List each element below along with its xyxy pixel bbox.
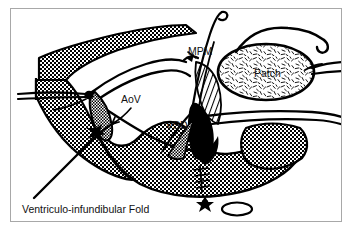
open-oval-marker — [222, 203, 252, 216]
label-aov: AoV — [121, 93, 141, 105]
label-ventriculo-infundibular-fold: Ventriculo-infundibular Fold — [22, 203, 149, 215]
label-patch: Patch — [254, 67, 281, 79]
label-vsd: VSD — [166, 119, 188, 131]
surgical-illustration: MPM Patch AoV VSD Ventriculo-infundibula… — [0, 0, 353, 234]
label-mpm: MPM — [188, 45, 213, 57]
asterisk-marker — [196, 196, 214, 212]
figure-root: MPM Patch AoV VSD Ventriculo-infundibula… — [0, 0, 353, 234]
myocardium-right-lobe — [241, 124, 307, 169]
